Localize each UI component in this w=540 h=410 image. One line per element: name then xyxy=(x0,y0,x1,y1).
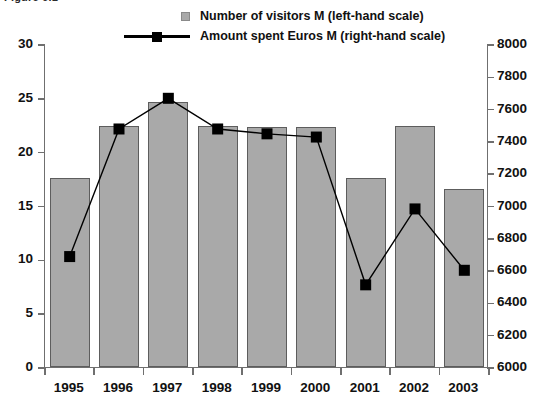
category-axis-tick xyxy=(439,368,441,375)
right-axis-tick xyxy=(487,303,494,305)
category-axis-tick xyxy=(192,368,194,375)
category-label-2002: 2002 xyxy=(389,380,438,395)
line-marker-1997 xyxy=(163,93,174,104)
left-axis-label: 30 xyxy=(0,36,33,51)
chart-figure: Figure 6.1 Number of visitors M (left-ha… xyxy=(0,0,540,410)
right-axis-label: 6200 xyxy=(497,327,527,342)
legend-swatch-bars xyxy=(105,12,200,21)
right-axis-tick xyxy=(487,270,494,272)
legend-label-bars: Number of visitors M (left-hand scale) xyxy=(200,9,424,23)
left-axis-tick xyxy=(38,260,45,262)
category-axis-tick xyxy=(488,368,490,375)
category-axis-tick xyxy=(44,368,46,375)
legend-item-bars: Number of visitors M (left-hand scale) xyxy=(105,6,445,26)
right-axis-label: 6600 xyxy=(497,262,527,277)
line-path xyxy=(70,98,465,285)
right-axis-tick xyxy=(487,77,494,79)
right-axis-tick xyxy=(487,335,494,337)
right-axis-label: 8000 xyxy=(497,36,527,51)
category-axis-tick xyxy=(389,368,391,375)
left-axis-label: 20 xyxy=(0,144,33,159)
category-axis-tick xyxy=(291,368,293,375)
right-axis-label: 7200 xyxy=(497,165,527,180)
right-axis-label: 6000 xyxy=(497,359,527,374)
legend-item-line: Amount spent Euros M (right-hand scale) xyxy=(105,26,445,46)
left-axis-label: 25 xyxy=(0,90,33,105)
left-axis-tick xyxy=(38,313,45,315)
category-label-1999: 1999 xyxy=(241,380,290,395)
category-label-1996: 1996 xyxy=(93,380,142,395)
left-axis-label: 15 xyxy=(0,198,33,213)
category-label-2003: 2003 xyxy=(439,380,488,395)
line-marker-1996 xyxy=(114,123,125,134)
right-axis-tick xyxy=(487,109,494,111)
line-marker-1999 xyxy=(262,128,273,139)
left-axis-label: 5 xyxy=(0,305,33,320)
category-axis-tick xyxy=(340,368,342,375)
category-label-2001: 2001 xyxy=(340,380,389,395)
line-marker-1998 xyxy=(212,123,223,134)
category-label-1998: 1998 xyxy=(192,380,241,395)
plot-area xyxy=(44,45,488,368)
category-axis-tick xyxy=(143,368,145,375)
right-axis-label: 7400 xyxy=(497,133,527,148)
right-axis-tick xyxy=(487,44,494,46)
line-marker-2000 xyxy=(311,132,322,143)
right-axis-label: 7800 xyxy=(497,68,527,83)
line-marker-1995 xyxy=(64,251,75,262)
legend-label-line: Amount spent Euros M (right-hand scale) xyxy=(200,29,445,43)
left-axis-label: 0 xyxy=(0,359,33,374)
right-axis-label: 6800 xyxy=(497,230,527,245)
left-axis-tick xyxy=(38,44,45,46)
category-label-2000: 2000 xyxy=(291,380,340,395)
right-axis-label: 6400 xyxy=(497,294,527,309)
line-series xyxy=(45,45,489,368)
gray-square-swatch-icon xyxy=(181,12,190,21)
category-axis-tick xyxy=(241,368,243,375)
figure-caption: Figure 6.1 xyxy=(4,0,58,3)
right-axis-label: 7600 xyxy=(497,101,527,116)
category-axis-tick xyxy=(93,368,95,375)
right-axis-tick xyxy=(487,141,494,143)
category-label-1997: 1997 xyxy=(143,380,192,395)
chart-legend: Number of visitors M (left-hand scale) A… xyxy=(105,6,445,46)
right-axis-tick xyxy=(487,206,494,208)
legend-swatch-line xyxy=(105,31,200,42)
left-axis-tick xyxy=(38,206,45,208)
line-marker-2003 xyxy=(459,265,470,276)
right-axis-tick xyxy=(487,238,494,240)
left-axis-tick xyxy=(38,152,45,154)
line-marker-2002 xyxy=(410,203,421,214)
left-axis-label: 10 xyxy=(0,251,33,266)
right-axis-tick xyxy=(487,173,494,175)
line-marker-2001 xyxy=(360,279,371,290)
black-line-marker-swatch-icon xyxy=(124,31,190,42)
category-label-1995: 1995 xyxy=(44,380,93,395)
right-axis-label: 7000 xyxy=(497,198,527,213)
left-axis-tick xyxy=(38,98,45,100)
